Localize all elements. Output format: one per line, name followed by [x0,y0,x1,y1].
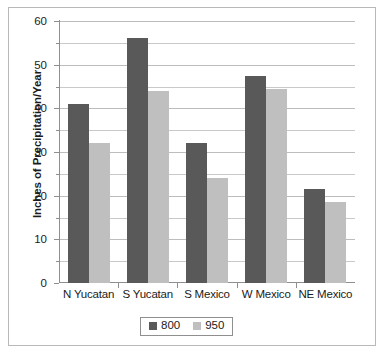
legend-label: 950 [205,320,224,332]
x-axis-label: S Yucatan [118,288,177,300]
x-axis-label: N Yucatan [59,288,118,300]
bar [89,143,110,283]
bar [127,38,148,283]
bar-group [245,21,287,283]
bar-series-container [59,21,355,283]
y-tick-label: 60 [34,15,47,27]
bar [325,202,346,283]
y-tick-label: 20 [34,190,47,202]
bar [148,91,169,283]
chart-legend: 800950 [140,317,233,336]
y-tick-label: 50 [34,59,47,71]
chart-figure: Inches of Precipitation/Year 01020304050… [0,0,384,354]
bar [245,76,266,283]
y-tick-0: 0 [54,283,59,284]
y-tick-label: 40 [34,102,47,114]
bar-group [304,21,346,283]
legend-swatch-icon [193,322,201,330]
x-axis-label: S Mexico [177,288,236,300]
legend-entry[interactable]: 950 [193,320,224,332]
bar [304,189,325,283]
y-tick-label: 10 [34,233,47,245]
bar [207,178,228,283]
plot-area: 0102030405060 [59,21,355,283]
y-tick-label: 0 [41,277,47,289]
bar-group [127,21,169,283]
x-axis-labels: N YucatanS YucatanS MexicoW MexicoNE Mex… [59,288,355,306]
bar-group [186,21,228,283]
x-axis-label: NE Mexico [296,288,355,300]
x-axis-label: W Mexico [237,288,296,300]
y-tick-label: 30 [34,146,47,158]
bar [186,143,207,283]
bar [68,104,89,283]
legend-swatch-icon [149,322,157,330]
bar [266,89,287,283]
legend-label: 800 [161,320,180,332]
bar-group [68,21,110,283]
legend-entry[interactable]: 800 [149,320,180,332]
